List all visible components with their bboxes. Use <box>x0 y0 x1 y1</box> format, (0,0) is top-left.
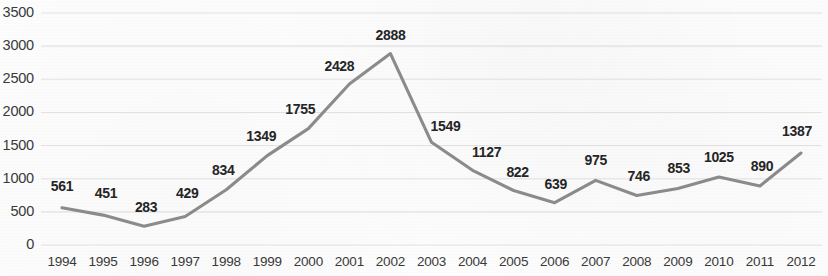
data-label-2003: 1549 <box>422 118 470 134</box>
data-label-1996: 283 <box>122 199 170 215</box>
data-label-2000: 1755 <box>276 101 324 117</box>
y-axis-tick-2500: 2500 <box>0 70 34 86</box>
data-label-2004: 1127 <box>463 144 511 160</box>
y-axis-tick-3500: 3500 <box>0 4 34 20</box>
data-label-2007: 975 <box>572 152 620 168</box>
y-axis-tick-3000: 3000 <box>0 37 34 53</box>
data-label-1999: 1349 <box>237 128 285 144</box>
data-label-1994: 561 <box>38 178 86 194</box>
data-label-2010: 1025 <box>695 149 743 165</box>
y-axis-tick-1500: 1500 <box>0 137 34 153</box>
line-chart: 0500100015002000250030003500 19941995199… <box>0 0 828 276</box>
data-label-1997: 429 <box>163 185 211 201</box>
data-label-2011: 890 <box>738 158 786 174</box>
data-label-2006: 639 <box>532 176 580 192</box>
y-axis-tick-1000: 1000 <box>0 170 34 186</box>
y-axis-tick-500: 500 <box>0 203 34 219</box>
data-label-1998: 834 <box>199 162 247 178</box>
data-label-2002: 2888 <box>366 27 414 43</box>
y-axis-tick-2000: 2000 <box>0 103 34 119</box>
data-label-2012: 1387 <box>773 123 821 139</box>
y-axis-tick-0: 0 <box>0 236 34 252</box>
data-label-2001: 2428 <box>315 58 363 74</box>
x-axis-tick-2012: 2012 <box>777 254 825 269</box>
